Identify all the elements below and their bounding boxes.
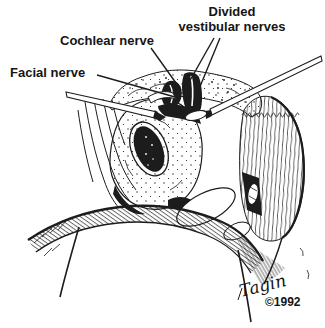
surgical-illustration-figure: Divided vestibular nerves Cochlear nerve…	[0, 0, 325, 328]
label-cochlear-nerve: Cochlear nerve	[60, 33, 154, 48]
label-divided-vestibular-line1: Divided	[209, 4, 256, 19]
label-divided-vestibular-line2: vestibular nerves	[179, 19, 286, 34]
illustration-canvas: Divided vestibular nerves Cochlear nerve…	[0, 0, 325, 328]
label-facial-nerve: Facial nerve	[10, 65, 85, 80]
copyright-text: ©1992	[265, 295, 301, 309]
